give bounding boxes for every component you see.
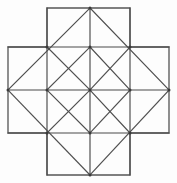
vertex-right-apex xyxy=(168,89,171,92)
geometric-figure-canvas xyxy=(0,0,177,183)
vertex-inner-sw xyxy=(46,132,49,135)
vertex-mid-left xyxy=(46,89,49,92)
vertex-top-apex xyxy=(89,7,92,10)
vertex-inner-ne xyxy=(129,46,132,49)
vertex-inner-nw xyxy=(46,46,49,49)
vertex-bottom-apex xyxy=(89,174,92,177)
vertex-center xyxy=(89,89,92,92)
vertex-mid-bottom xyxy=(89,132,92,135)
vertex-mid-right xyxy=(129,89,132,92)
vertex-mid-top xyxy=(89,46,92,49)
vertex-left-apex xyxy=(7,89,10,92)
vertex-inner-se xyxy=(129,132,132,135)
geometric-figure-svg xyxy=(0,0,177,183)
